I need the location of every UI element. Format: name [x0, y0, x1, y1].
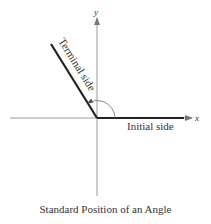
angle-diagram: y x Initial side Terminal side: [0, 0, 211, 224]
y-axis-label: y: [93, 7, 98, 17]
x-axis-label: x: [194, 113, 199, 123]
initial-side-label: Initial side: [127, 120, 174, 132]
figure-caption: Standard Position of an Angle: [0, 203, 211, 215]
